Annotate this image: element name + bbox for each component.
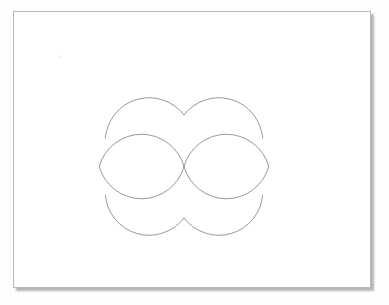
paper-speckle-mark (58, 55, 62, 59)
scene-canvas (0, 0, 389, 305)
paper-sheet-card (13, 11, 371, 288)
